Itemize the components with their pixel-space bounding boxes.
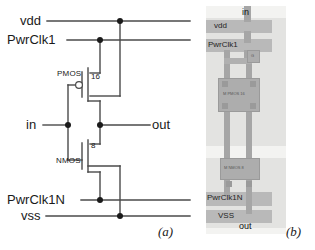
layout-pmos-contact-d2 <box>250 103 256 109</box>
layout-label-pwrclk1: PwrClk1 <box>208 41 238 49</box>
layout-track-in-mid <box>244 31 251 43</box>
layout-pmos-contact-d1 <box>250 81 256 87</box>
caption-panel-a: (a) <box>158 224 173 240</box>
label-nmos-width: 8 <box>91 142 95 150</box>
label-in: in <box>26 118 36 131</box>
layout-label-pwrclk1n: PwrClk1N <box>207 194 243 202</box>
layout-pmos-label: M PMOS 16 <box>223 92 245 96</box>
junction-dot-vdd <box>117 18 123 24</box>
label-vdd: vdd <box>20 14 41 27</box>
junction-dots <box>65 18 123 219</box>
layout-label-vss: VSS <box>218 212 234 220</box>
label-pmos-width: 16 <box>91 73 100 81</box>
layout-pmos-contact-s2 <box>222 103 228 109</box>
layout-gate-pin-label: G <box>251 54 254 58</box>
junction-dot-pwrclk1 <box>97 37 103 43</box>
layout-track-left-upper <box>224 50 230 78</box>
junction-dot-pwrclk1n <box>97 197 103 203</box>
caption-panel-b: (b) <box>286 224 301 240</box>
layout-nmos-contact-s <box>226 181 232 187</box>
pmos-gate-bubble-icon <box>76 82 83 89</box>
label-vss: vss <box>21 209 41 222</box>
layout-label-out: out <box>239 222 252 231</box>
layout-label-vdd: vdd <box>214 22 227 30</box>
layout-nmos-contact-d <box>246 181 252 187</box>
label-pwrclk1: PwrClk1 <box>7 33 55 46</box>
label-out: out <box>152 118 170 131</box>
figure-root: vdd PwrClk1 PwrClk1N vss in out PMOS 16 … <box>0 0 315 250</box>
panel-schematic: vdd PwrClk1 PwrClk1N vss in out PMOS 16 … <box>0 0 200 250</box>
junction-dot-out <box>97 122 103 128</box>
label-pmos: PMOS <box>57 70 81 78</box>
label-nmos: NMOS <box>56 157 81 165</box>
panel-layout: G M PMOS 16 M NMOS 8 in vdd PwrClk1 PwrC… <box>206 6 286 234</box>
junction-dot-in <box>65 122 71 128</box>
layout-nmos-label: M NMOS 8 <box>224 166 244 170</box>
junction-dot-vss <box>117 213 123 219</box>
label-pwrclk1n: PwrClk1N <box>7 193 65 206</box>
layout-label-in: in <box>242 8 249 17</box>
layout-pmos-contact-s1 <box>222 81 228 87</box>
